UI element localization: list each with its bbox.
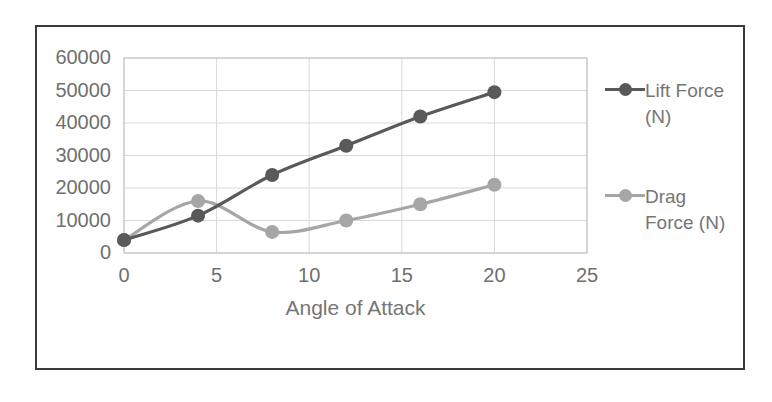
data-point — [117, 233, 131, 247]
data-point — [487, 85, 501, 99]
data-point — [413, 110, 427, 124]
legend-marker-drag-icon — [605, 185, 645, 205]
x-tick-15: 15 — [372, 265, 432, 285]
x-tick-10: 10 — [279, 265, 339, 285]
x-axis-title: Angle of Attack — [124, 296, 587, 320]
data-point — [265, 225, 279, 239]
legend-marker-lift-icon — [605, 79, 645, 99]
y-tick-60000: 60000 — [0, 47, 111, 67]
y-tick-30000: 30000 — [0, 145, 111, 165]
legend-label-drag-force: Drag Force (N) — [645, 184, 740, 236]
data-point — [487, 178, 501, 192]
data-point — [191, 194, 205, 208]
data-point — [191, 209, 205, 223]
x-tick-25: 25 — [557, 265, 617, 285]
legend-item-lift-force[interactable]: Lift Force (N) — [605, 78, 740, 130]
x-tick-5: 5 — [187, 265, 247, 285]
y-tick-0: 0 — [0, 242, 111, 262]
data-point — [265, 168, 279, 182]
y-tick-10000: 10000 — [0, 210, 111, 230]
data-point — [339, 139, 353, 153]
data-point — [339, 214, 353, 228]
y-tick-40000: 40000 — [0, 112, 111, 132]
line-chart: 0100002000030000400005000060000 05101520… — [0, 0, 772, 402]
data-point — [413, 197, 427, 211]
y-tick-50000: 50000 — [0, 80, 111, 100]
legend-label-lift-force: Lift Force (N) — [645, 78, 740, 130]
x-tick-0: 0 — [94, 265, 154, 285]
legend-item-drag-force[interactable]: Drag Force (N) — [605, 184, 740, 236]
gridlines — [124, 58, 587, 253]
x-tick-20: 20 — [464, 265, 524, 285]
y-tick-20000: 20000 — [0, 177, 111, 197]
